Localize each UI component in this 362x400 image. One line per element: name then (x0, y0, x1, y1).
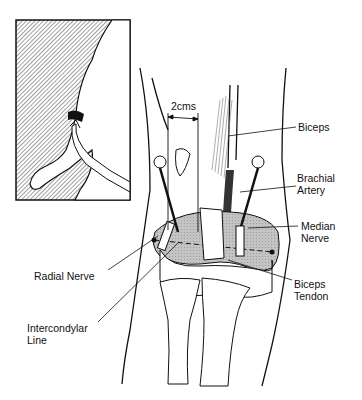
biceps-tendon (200, 208, 224, 260)
inset-panel (16, 20, 130, 200)
label-2cms: 2cms (171, 100, 196, 112)
label-radial-nerve: Radial Nerve (34, 270, 95, 282)
label-biceps-tendon: Biceps Tendon (294, 278, 328, 302)
forearm-bones (160, 278, 250, 386)
probe (176, 149, 191, 176)
label-median-nerve: Median Nerve (301, 220, 335, 244)
label-brachial-artery: Brachial Artery (297, 172, 335, 196)
label-intercondylar-line: Intercondylar Line (27, 322, 88, 346)
label-biceps: Biceps (298, 121, 330, 133)
